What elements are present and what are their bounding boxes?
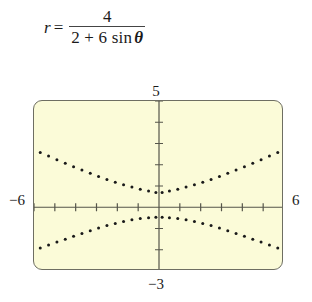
plot-point: [122, 220, 125, 223]
plot-point: [201, 181, 204, 184]
x-max-label: 6: [292, 193, 300, 208]
plot-point: [276, 151, 279, 154]
plot-point: [268, 244, 271, 247]
plot-point: [47, 155, 50, 158]
plot-point: [97, 175, 100, 178]
plot-point: [161, 191, 164, 194]
plot-point: [97, 227, 100, 230]
plot-point: [226, 172, 229, 175]
plot-point: [130, 186, 133, 189]
plot-point: [251, 238, 254, 241]
plot-point: [154, 216, 157, 219]
plot-point: [39, 151, 42, 154]
plot-point: [176, 217, 179, 220]
plot-point: [147, 190, 150, 193]
plot-point: [64, 162, 67, 165]
plot-point: [105, 178, 108, 181]
plot-point: [147, 216, 150, 219]
polar-equation: r = 4 2 + 6 sinθ: [44, 8, 145, 46]
plot-point: [176, 188, 179, 191]
plot-point: [64, 238, 67, 241]
plot-point: [268, 155, 271, 158]
fraction-numerator: 4: [93, 8, 122, 26]
plot-point: [210, 224, 213, 227]
plot-point: [260, 241, 263, 244]
plot-point: [185, 186, 188, 189]
plot-point: [161, 216, 164, 219]
plot-point: [210, 178, 213, 181]
y-max-label: 5: [0, 84, 312, 99]
plot-point: [226, 229, 229, 232]
plot-point: [55, 241, 58, 244]
denominator-expression: 2 + 6 sin: [71, 28, 132, 47]
plot-point: [168, 216, 171, 219]
equals-sign: =: [54, 19, 70, 36]
plot-point: [89, 229, 92, 232]
theta-symbol: θ: [132, 28, 143, 47]
fraction-denominator: 2 + 6 sinθ: [69, 27, 145, 46]
plot-frame: [33, 100, 283, 270]
plot-point: [80, 232, 83, 235]
plot-point: [243, 165, 246, 168]
plot-point: [47, 244, 50, 247]
plot-point: [276, 247, 279, 250]
plot-point: [193, 220, 196, 223]
plot-point: [193, 183, 196, 186]
plot-point: [243, 235, 246, 238]
plot-point: [89, 172, 92, 175]
plot-point: [72, 165, 75, 168]
plot-point: [139, 217, 142, 220]
plot-point: [235, 169, 238, 172]
plot-point: [114, 181, 117, 184]
plot-point: [55, 158, 58, 161]
plot-point: [122, 183, 125, 186]
plot-canvas: [34, 101, 283, 270]
plot-point: [139, 188, 142, 191]
equation-variable: r: [44, 19, 54, 36]
plot-point: [235, 232, 238, 235]
plot-point: [114, 222, 117, 225]
plot-point: [218, 175, 221, 178]
plot-point: [39, 247, 42, 250]
plot-point: [105, 224, 108, 227]
plot-point: [218, 227, 221, 230]
plot-point: [80, 169, 83, 172]
plot-point: [72, 235, 75, 238]
plot-point: [260, 158, 263, 161]
plot-point: [168, 190, 171, 193]
plot-point: [201, 222, 204, 225]
plot-point: [185, 218, 188, 221]
graphing-calculator-screen: [33, 100, 283, 270]
plot-point: [251, 162, 254, 165]
plot-point: [130, 218, 133, 221]
fraction: 4 2 + 6 sinθ: [69, 8, 145, 46]
y-min-label: −3: [0, 277, 312, 292]
x-min-label: −6: [9, 193, 25, 208]
plot-point: [154, 191, 157, 194]
